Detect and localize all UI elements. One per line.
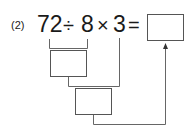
connector-step1-to-3 [69,38,120,87]
bracket-72-div-8 [50,39,88,49]
arrow-up-icon [163,43,168,49]
connector-lines [0,0,192,131]
connector-step2-to-answer [94,47,166,125]
